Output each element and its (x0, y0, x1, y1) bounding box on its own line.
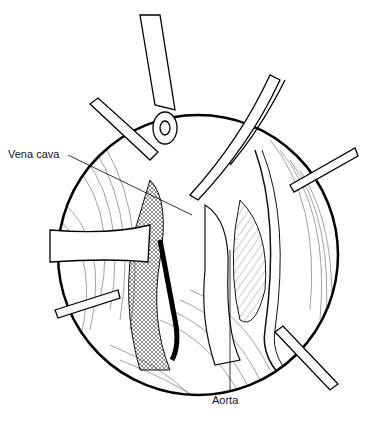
label-vena-cava: Vena cava (8, 148, 59, 160)
surgical-field-illustration (0, 0, 378, 426)
label-aorta: Aorta (212, 394, 238, 406)
